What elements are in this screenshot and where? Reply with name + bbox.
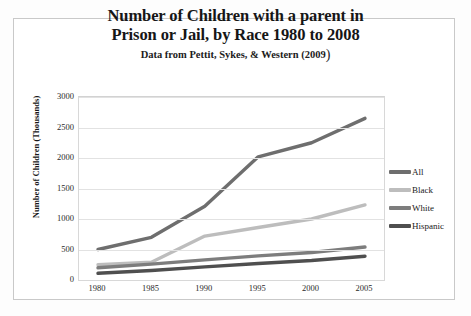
y-axis-tick-labels: 050010001500200025003000 (30, 96, 74, 281)
chart-legend: AllBlackWhiteHispanic (389, 163, 463, 235)
legend-item-white[interactable]: White (389, 199, 463, 217)
x-axis-tick-label: 2000 (286, 283, 336, 293)
legend-swatch-icon (389, 206, 411, 210)
gridline (79, 128, 384, 129)
x-axis-tick-label: 1985 (125, 283, 175, 293)
y-axis-tick-label: 500 (34, 244, 74, 254)
y-axis-tick-label: 3000 (34, 91, 74, 101)
gridline (79, 250, 384, 251)
y-axis-tick-label: 2500 (34, 122, 74, 132)
y-axis-tick-label: 0 (34, 274, 74, 284)
legend-label: Black (412, 185, 433, 195)
x-axis-tick-label: 1980 (72, 283, 122, 293)
legend-item-all[interactable]: All (389, 163, 463, 181)
legend-label: All (412, 167, 424, 177)
legend-item-black[interactable]: Black (389, 181, 463, 199)
plot-area (78, 96, 385, 281)
y-axis-tick-label: 1000 (34, 213, 74, 223)
legend-swatch-icon (389, 224, 411, 228)
y-axis-tick-label: 1500 (34, 183, 74, 193)
legend-swatch-icon (389, 188, 411, 192)
y-axis-tick-label: 2000 (34, 152, 74, 162)
legend-label: Hispanic (412, 221, 444, 231)
legend-label: White (412, 203, 434, 213)
series-line-black (98, 205, 365, 265)
gridline (79, 219, 384, 220)
series-line-all (98, 118, 365, 249)
x-axis-tick-labels: 198019851990199520002005 (78, 283, 385, 299)
gridline (79, 158, 384, 159)
scanned-page: Number of Children with a parent in Pris… (0, 0, 471, 316)
legend-item-hispanic[interactable]: Hispanic (389, 217, 463, 235)
gridline (79, 189, 384, 190)
x-axis-tick-label: 1990 (179, 283, 229, 293)
legend-swatch-icon (389, 170, 411, 174)
gridline (79, 97, 384, 98)
x-axis-tick-label: 1995 (232, 283, 282, 293)
x-axis-tick-label: 2005 (339, 283, 389, 293)
line-chart: Number of Children (Thousands) 050010001… (0, 0, 471, 316)
